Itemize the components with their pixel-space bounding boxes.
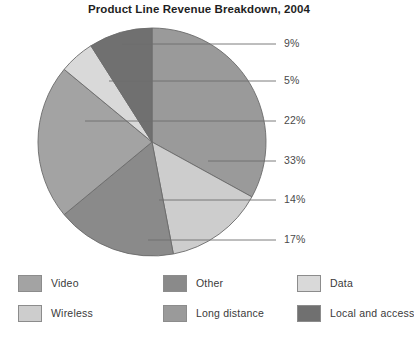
- slice-value-label-other: 17%: [284, 233, 306, 245]
- legend-label-video: Video: [51, 277, 79, 289]
- legend-item-wireless: Wireless: [18, 305, 163, 322]
- slice-value-label-long-distance: 33%: [284, 154, 306, 166]
- slice-value-label-wireless: 14%: [284, 193, 306, 205]
- chart-title: Product Line Revenue Breakdown, 2004: [0, 3, 398, 15]
- pie-slice-group: [38, 28, 266, 256]
- legend-swatch-local-and-access: [297, 305, 321, 322]
- legend-swatch-wireless: [18, 305, 42, 322]
- legend-label-local-and-access: Local and access: [330, 307, 414, 319]
- legend-label-long-distance: Long distance: [196, 307, 264, 319]
- legend-swatch-data: [297, 275, 321, 292]
- legend-item-local-and-access: Local and access: [297, 305, 414, 322]
- slice-value-label-local-and-access: 9%: [284, 37, 300, 49]
- legend-label-other: Other: [196, 277, 223, 289]
- chart-legend: Video Other Data Wireless Long distance …: [18, 268, 390, 330]
- legend-swatch-video: [18, 275, 42, 292]
- legend-label-data: Data: [330, 277, 353, 289]
- slice-value-label-video: 22%: [284, 114, 306, 126]
- legend-swatch-other: [163, 275, 187, 292]
- legend-swatch-long-distance: [163, 305, 187, 322]
- pie-plot-area: 9%5%22%33%14%17%: [0, 20, 398, 265]
- legend-item-data: Data: [297, 275, 414, 292]
- pie-svg: [0, 20, 398, 265]
- legend-label-wireless: Wireless: [51, 307, 93, 319]
- legend-item-video: Video: [18, 275, 163, 292]
- legend-item-other: Other: [163, 275, 297, 292]
- slice-value-label-data: 5%: [284, 74, 300, 86]
- legend-item-long-distance: Long distance: [163, 305, 297, 322]
